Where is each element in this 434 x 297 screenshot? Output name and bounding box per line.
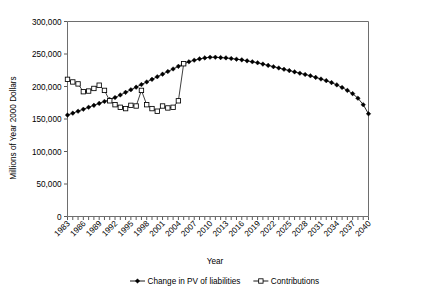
chart-legend: Change in PV of liabilitiesContributions (130, 277, 319, 286)
data-point-marker (282, 67, 287, 72)
x-axis-tick-label: 2007 (179, 219, 199, 239)
legend-square-icon (259, 279, 263, 283)
data-point-marker (313, 75, 318, 80)
y-axis-title: Millions of Year 2000 Dollars (9, 76, 18, 179)
data-point-marker (202, 56, 207, 61)
chart-figure: 300,000250,000200,000150,000100,00050,00… (0, 0, 434, 297)
data-point-marker (329, 80, 334, 85)
x-axis-tick-label: 2037 (338, 219, 358, 239)
data-point-marker (129, 87, 134, 92)
data-point-marker (102, 99, 107, 104)
x-axis-tick-label: 2034 (322, 219, 342, 239)
x-axis-tick-label: 2013 (211, 219, 231, 239)
data-point-marker (155, 109, 159, 113)
data-point-marker (176, 64, 181, 69)
data-point-marker (123, 106, 127, 110)
data-point-marker (255, 60, 260, 65)
data-point-marker (139, 82, 144, 87)
data-point-marker (97, 83, 101, 87)
data-point-marker (81, 107, 86, 112)
data-point-marker (239, 58, 244, 63)
y-axis-tick-label: 0 (57, 213, 62, 222)
data-point-marker (92, 103, 97, 108)
data-point-marker (108, 99, 112, 103)
x-axis-tick-label: 2040 (354, 219, 374, 239)
data-point-marker (70, 111, 75, 116)
data-point-marker (102, 88, 106, 92)
data-point-marker (166, 106, 170, 110)
data-point-marker (366, 112, 371, 117)
data-point-marker (187, 60, 192, 65)
data-point-marker (324, 78, 329, 83)
x-axis-tick-label: 2016 (227, 219, 247, 239)
data-point-marker (134, 104, 138, 108)
data-point-marker (144, 80, 149, 85)
data-point-marker (192, 58, 197, 63)
data-point-marker (71, 80, 75, 84)
x-axis-tick-label: 1995 (116, 219, 136, 239)
data-point-marker (176, 99, 180, 103)
data-point-marker (118, 105, 122, 109)
x-axis-tick-label: 2019 (243, 219, 263, 239)
data-point-marker (245, 59, 250, 64)
data-point-marker (150, 106, 154, 110)
plot-area-frame (68, 22, 369, 217)
x-axis-tick-label: 2031 (306, 219, 326, 239)
x-axis-tick-label: 1986 (69, 219, 89, 239)
data-point-marker (97, 101, 102, 106)
data-point-marker (81, 90, 85, 94)
x-axis-tick-labels: 1983198619891992199519982001200420072010… (53, 219, 374, 239)
data-point-marker (213, 55, 218, 60)
data-point-marker (271, 64, 276, 69)
x-axis-tick-label: 1989 (84, 219, 104, 239)
data-point-marker (250, 60, 255, 65)
data-point-marker (292, 70, 297, 75)
data-point-marker (261, 62, 266, 67)
data-point-marker (155, 74, 160, 79)
data-point-marker (171, 67, 176, 72)
x-axis-tick-label: 1983 (53, 219, 73, 239)
data-point-marker (145, 103, 149, 107)
data-point-marker (303, 72, 308, 77)
data-point-marker (266, 63, 271, 68)
data-point-marker (287, 68, 292, 73)
data-point-marker (134, 85, 139, 90)
data-point-marker (92, 86, 96, 90)
data-point-marker (118, 93, 123, 98)
data-point-marker (113, 103, 117, 107)
x-axis-tick-label: 2004 (164, 219, 184, 239)
data-point-marker (123, 90, 128, 95)
data-point-marker (160, 104, 164, 108)
data-point-marker (319, 77, 324, 82)
data-point-marker (86, 89, 90, 93)
y-axis-tick-label: 250,000 (32, 50, 62, 59)
y-axis-tick-label: 50,000 (36, 180, 61, 189)
data-point-marker (76, 109, 81, 114)
data-point-marker (65, 113, 70, 118)
data-point-marker (129, 103, 133, 107)
x-axis-title: Year (207, 257, 224, 266)
x-axis-tick-label: 2010 (195, 219, 215, 239)
data-point-marker (166, 69, 171, 74)
data-point-marker (308, 73, 313, 78)
data-point-marker (171, 105, 175, 109)
legend-diamond-icon (135, 279, 140, 284)
data-series-layer (65, 55, 371, 117)
data-point-marker (65, 77, 69, 81)
y-axis-tick-label: 200,000 (32, 83, 62, 92)
x-axis-tick-label: 1998 (132, 219, 152, 239)
line-chart: 300,000250,000200,000150,000100,00050,00… (0, 0, 434, 297)
data-point-marker (234, 57, 239, 62)
data-point-marker (218, 55, 223, 60)
y-axis-tick-marks (64, 22, 68, 217)
data-point-marker (229, 56, 234, 61)
y-axis-tick-labels: 300,000250,000200,000150,000100,00050,00… (32, 18, 62, 222)
data-point-marker (86, 105, 91, 110)
legend-item-label: Change in PV of liabilities (148, 277, 241, 286)
data-point-marker (197, 57, 202, 62)
legend-item-label: Contributions (271, 277, 319, 286)
x-axis-tick-label: 2025 (274, 219, 294, 239)
data-point-marker (340, 85, 345, 90)
x-axis-tick-label: 2028 (290, 219, 310, 239)
data-point-marker (345, 88, 350, 93)
